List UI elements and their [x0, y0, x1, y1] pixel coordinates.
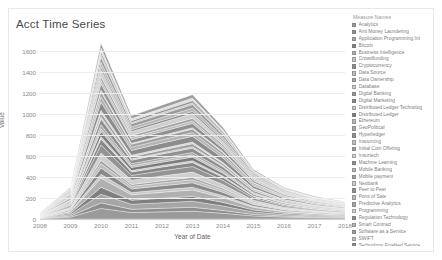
- legend-swatch-icon: [352, 126, 356, 130]
- legend-item-label: Software as a Service: [359, 229, 407, 235]
- legend-item[interactable]: Mobile Banking: [352, 167, 438, 173]
- legend-swatch-icon: [352, 175, 356, 179]
- legend-swatch-icon: [352, 140, 356, 144]
- legend-item-label: Distributed Ledger: [359, 112, 399, 118]
- legend-swatch-icon: [352, 64, 356, 68]
- legend-item[interactable]: Programming: [352, 208, 438, 214]
- legend-item[interactable]: Peer to Peer: [352, 187, 438, 193]
- legend-item-label: Mobile payment: [359, 174, 394, 180]
- legend-item-label: Distributed Ledger Technolog: [359, 105, 423, 111]
- legend-swatch-icon: [352, 44, 356, 48]
- legend-swatch-icon: [352, 223, 356, 227]
- legend-swatch-icon: [352, 230, 356, 234]
- legend-item-label: Point of Sale: [359, 194, 387, 200]
- legend-item[interactable]: Software as a Service: [352, 229, 438, 235]
- gridline: [40, 156, 345, 157]
- legend-item-label: Peer to Peer: [359, 187, 386, 193]
- legend-swatch-icon: [352, 202, 356, 206]
- x-axis-label: Year of Date: [40, 233, 345, 240]
- chart-screenshot: Acct Time Series 02004006008001000120014…: [0, 0, 442, 260]
- y-tick-label: 400: [26, 173, 36, 180]
- legend-item[interactable]: Insurtech: [352, 153, 438, 159]
- legend-swatch-icon: [352, 113, 356, 117]
- legend-item[interactable]: Mobile payment: [352, 174, 438, 180]
- legend-swatch-icon: [352, 243, 356, 246]
- legend-item-label: Insourcing: [359, 139, 382, 145]
- y-tick-label: 1400: [22, 68, 36, 75]
- gridlines: [40, 40, 345, 219]
- legend-swatch-icon: [352, 181, 356, 185]
- legend-item[interactable]: Technology Enabled Service: [352, 243, 438, 247]
- x-tick-label: 2012: [155, 222, 169, 229]
- gridline: [40, 93, 345, 94]
- legend-item-label: Predictive Analytics: [359, 201, 401, 207]
- legend-item[interactable]: Bitcoin: [352, 43, 438, 49]
- legend-item[interactable]: Analytics: [352, 22, 438, 28]
- y-tick-label: 1200: [22, 89, 36, 96]
- x-tick-label: 2008: [33, 222, 47, 229]
- legend-swatch-icon: [352, 92, 356, 96]
- legend-swatch-icon: [352, 147, 356, 151]
- legend[interactable]: Measure Names AnalyticsAnti Money Launde…: [352, 14, 438, 246]
- legend-item[interactable]: Ethereum: [352, 118, 438, 124]
- y-tick-label: 800: [26, 131, 36, 138]
- legend-item[interactable]: Neobank: [352, 180, 438, 186]
- legend-item[interactable]: SWIFT: [352, 236, 438, 242]
- legend-swatch-icon: [352, 99, 356, 103]
- legend-swatch-icon: [352, 195, 356, 199]
- gridline: [40, 114, 345, 115]
- legend-swatch-icon: [352, 161, 356, 165]
- legend-item[interactable]: GeoPolitical: [352, 125, 438, 131]
- y-axis-ticks: 02004006008001000120014001600: [0, 40, 36, 219]
- legend-item-label: Data Ownership: [359, 77, 394, 83]
- legend-item[interactable]: Insourcing: [352, 139, 438, 145]
- legend-item-label: SWIFT: [359, 236, 374, 242]
- legend-item[interactable]: Crowdfunding: [352, 56, 438, 62]
- legend-item[interactable]: Predictive Analytics: [352, 201, 438, 207]
- legend-item[interactable]: Initial Coin Offering: [352, 146, 438, 152]
- gridline: [40, 72, 345, 73]
- legend-swatch-icon: [352, 237, 356, 241]
- legend-item[interactable]: Hyperledger: [352, 132, 438, 138]
- legend-item-label: Programming: [359, 208, 388, 214]
- legend-swatch-icon: [352, 154, 356, 158]
- x-tick-label: 2010: [94, 222, 108, 229]
- legend-item[interactable]: Distributed Ledger: [352, 112, 438, 118]
- y-tick-label: 1000: [22, 110, 36, 117]
- legend-item[interactable]: Digital Marketing: [352, 98, 438, 104]
- legend-item-label: Hyperledger: [359, 132, 386, 138]
- legend-item[interactable]: Digital Banking: [352, 91, 438, 97]
- legend-swatch-icon: [352, 51, 356, 55]
- legend-item-label: Crowdfunding: [359, 56, 389, 62]
- legend-item[interactable]: Distributed Ledger Technolog: [352, 105, 438, 111]
- legend-item-label: Machine Learning: [359, 160, 398, 166]
- x-tick-label: 2011: [125, 222, 138, 229]
- legend-item[interactable]: Data Ownership: [352, 77, 438, 83]
- legend-item[interactable]: Application Programming Int: [352, 36, 438, 42]
- legend-item[interactable]: Anti Money Laundering: [352, 29, 438, 35]
- legend-item-label: Cryptocurrency: [359, 63, 392, 69]
- y-axis-label: Value: [0, 112, 5, 128]
- x-axis-line: [40, 219, 345, 220]
- legend-swatch-icon: [352, 78, 356, 82]
- legend-item[interactable]: Smart Contract: [352, 222, 438, 228]
- x-tick-label: 2018: [338, 222, 352, 229]
- legend-item[interactable]: Regulation Technology: [352, 215, 438, 221]
- legend-swatch-icon: [352, 71, 356, 75]
- legend-item[interactable]: Database: [352, 84, 438, 90]
- gridline: [40, 177, 345, 178]
- legend-swatch-icon: [352, 106, 356, 110]
- legend-item-label: Anti Money Laundering: [359, 29, 409, 35]
- legend-swatch-icon: [352, 133, 356, 137]
- legend-swatch-icon: [352, 188, 356, 192]
- y-tick-label: 200: [26, 194, 36, 201]
- legend-item[interactable]: Data Source: [352, 70, 438, 76]
- legend-item-label: Digital Banking: [359, 91, 392, 97]
- x-tick-label: 2016: [277, 222, 291, 229]
- legend-item[interactable]: Business Intelligence: [352, 50, 438, 56]
- legend-item[interactable]: Machine Learning: [352, 160, 438, 166]
- legend-item-label: Mobile Banking: [359, 167, 392, 173]
- legend-swatch-icon: [352, 209, 356, 213]
- legend-item[interactable]: Cryptocurrency: [352, 63, 438, 69]
- legend-item[interactable]: Point of Sale: [352, 194, 438, 200]
